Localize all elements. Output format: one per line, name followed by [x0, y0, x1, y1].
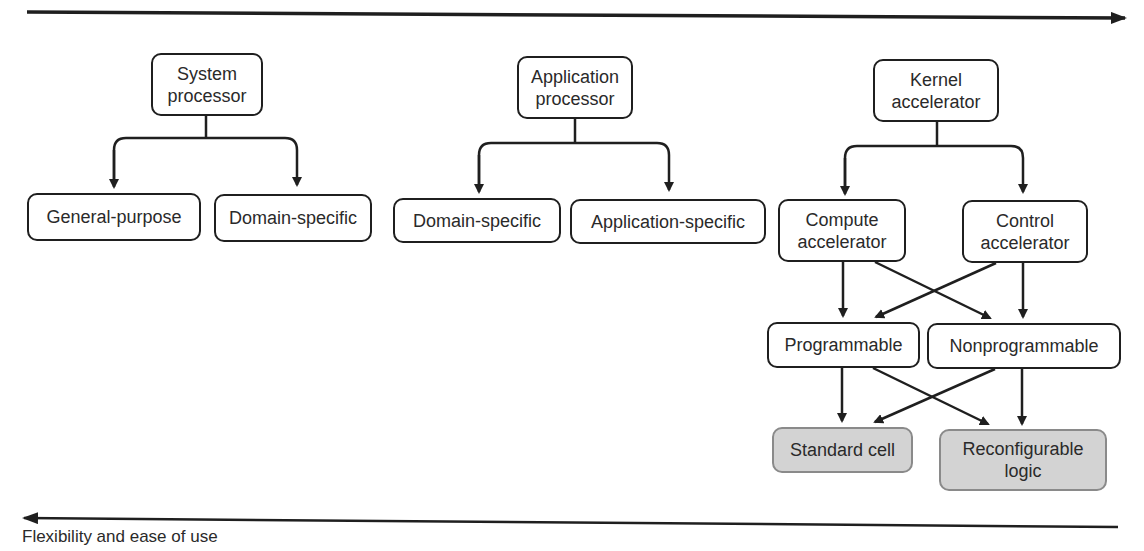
node-label: General-purpose: [46, 206, 181, 228]
node-kernel-accelerator: Kernel accelerator: [873, 59, 999, 122]
node-reconfigurable-logic: Reconfigurable logic: [939, 429, 1107, 491]
kernel-accelerator-edges: [845, 121, 1023, 194]
node-label: Kernel accelerator: [891, 69, 980, 113]
node-label: Programmable: [784, 334, 902, 356]
system-processor-edges: [114, 115, 297, 187]
node-programmable: Programmable: [767, 322, 920, 368]
node-application-processor: Application processor: [517, 56, 633, 119]
implementation-edges: [842, 368, 1022, 424]
top-axis-arrow: [27, 12, 1125, 18]
node-label: Reconfigurable logic: [962, 438, 1083, 482]
node-label: Application processor: [531, 66, 619, 110]
accelerator-type-edges: [843, 262, 1023, 318]
node-standard-cell: Standard cell: [772, 427, 913, 473]
node-label: Control accelerator: [980, 210, 1069, 254]
node-domain-specific-application: Domain-specific: [393, 198, 561, 243]
node-label: System processor: [167, 63, 246, 107]
node-domain-specific-system: Domain-specific: [214, 194, 372, 242]
node-application-specific: Application-specific: [570, 199, 766, 244]
node-label: Compute accelerator: [797, 209, 886, 253]
node-label: Standard cell: [790, 439, 895, 461]
node-control-accelerator: Control accelerator: [962, 200, 1088, 263]
node-general-purpose: General-purpose: [27, 193, 201, 241]
node-label: Nonprogrammable: [949, 335, 1098, 357]
bottom-axis-label: Flexibility and ease of use: [22, 527, 218, 547]
bottom-axis-arrow: [24, 518, 1118, 527]
node-compute-accelerator: Compute accelerator: [778, 199, 906, 262]
application-processor-edges: [479, 118, 669, 192]
node-label: Application-specific: [591, 211, 745, 233]
node-system-processor: System processor: [151, 53, 263, 116]
node-label: Domain-specific: [229, 207, 357, 229]
node-label: Domain-specific: [413, 210, 541, 232]
node-nonprogrammable: Nonprogrammable: [927, 323, 1121, 369]
accelerator-taxonomy-diagram: System processor General-purpose Domain-…: [0, 0, 1144, 551]
